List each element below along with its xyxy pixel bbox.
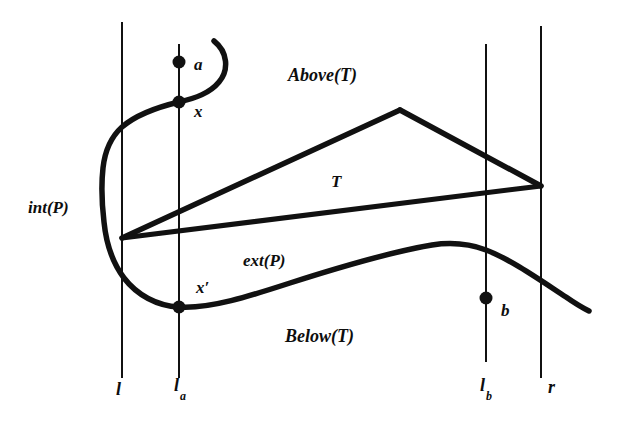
- label-line-la-subscript: a: [180, 389, 186, 403]
- label-line-lb: lb: [480, 376, 491, 398]
- label-point-x-prime: x′: [196, 279, 209, 296]
- label-triangle-t: T: [331, 173, 341, 190]
- label-line-lb-subscript: b: [486, 389, 492, 403]
- label-below-t: Below(T): [285, 327, 354, 345]
- point-x-marker: [173, 96, 186, 109]
- label-line-la: la: [174, 376, 185, 398]
- label-line-lb-base: l: [480, 375, 485, 395]
- triangle-edge-apex-to-right: [400, 110, 541, 186]
- point-a-marker: [173, 56, 186, 69]
- label-line-r: r: [548, 378, 555, 396]
- label-line-r-base: r: [548, 377, 555, 397]
- geometry-diagram: Above(T) Below(T) int(P) ext(P) T a x x′…: [0, 0, 617, 432]
- label-int-p: int(P): [28, 199, 69, 216]
- label-line-l: l: [116, 380, 121, 398]
- label-line-la-base: l: [174, 375, 179, 395]
- label-ext-p: ext(P): [243, 252, 285, 269]
- label-point-a: a: [194, 56, 203, 73]
- label-point-x: x: [194, 103, 203, 120]
- label-line-l-base: l: [116, 379, 121, 399]
- point-b-marker: [480, 292, 493, 305]
- point-x-prime-marker: [173, 301, 186, 314]
- label-above-t: Above(T): [288, 66, 357, 84]
- label-point-b: b: [501, 302, 510, 319]
